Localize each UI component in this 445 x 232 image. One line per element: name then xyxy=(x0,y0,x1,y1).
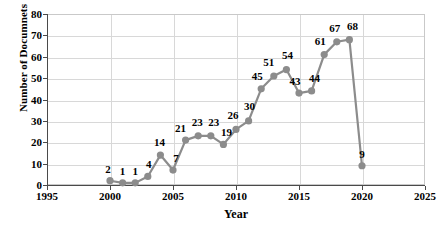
data-point-label: 14 xyxy=(154,137,165,148)
gridline-horizontal xyxy=(48,36,424,37)
plot-area xyxy=(47,14,425,185)
y-tick-mark xyxy=(43,57,47,58)
y-tick-mark xyxy=(43,35,47,36)
data-point-label: 67 xyxy=(329,23,340,34)
y-tick-label: 20 xyxy=(16,137,42,148)
gridline-horizontal xyxy=(48,79,424,80)
x-axis-title: Year xyxy=(47,207,425,222)
y-tick-mark xyxy=(43,121,47,122)
x-tick-label: 2010 xyxy=(214,190,258,202)
y-tick-mark xyxy=(43,14,47,15)
y-axis-title: Number of Documnets xyxy=(17,0,29,133)
gridline-horizontal xyxy=(48,101,424,102)
data-point-label: 44 xyxy=(309,73,320,84)
data-point-label: 2 xyxy=(105,164,111,175)
gridline-horizontal xyxy=(48,143,424,144)
x-tick-label: 2000 xyxy=(88,190,132,202)
x-tick-mark xyxy=(362,186,363,190)
x-tick-label: 1995 xyxy=(25,190,69,202)
data-point-label: 9 xyxy=(359,149,365,160)
data-point-label: 26 xyxy=(228,110,239,121)
data-point-label: 4 xyxy=(146,159,152,170)
y-tick-mark xyxy=(43,78,47,79)
line-chart: 01020304050607080 1995200020052010201520… xyxy=(0,0,445,232)
y-axis-line xyxy=(47,14,48,186)
x-tick-mark xyxy=(47,186,48,190)
data-point-label: 1 xyxy=(132,166,138,177)
x-tick-label: 2005 xyxy=(151,190,195,202)
y-tick-label: 10 xyxy=(16,159,42,170)
x-tick-mark xyxy=(299,186,300,190)
data-point-label: 43 xyxy=(290,76,301,87)
data-point-label: 61 xyxy=(315,36,326,47)
gridline-horizontal xyxy=(48,58,424,59)
data-point-label: 23 xyxy=(208,117,219,128)
y-tick-mark xyxy=(43,142,47,143)
x-tick-mark xyxy=(173,186,174,190)
x-tick-mark xyxy=(110,186,111,190)
gridline-vertical xyxy=(111,15,112,184)
data-point-label: 23 xyxy=(192,117,203,128)
data-point-label: 21 xyxy=(175,123,186,134)
data-point-label: 7 xyxy=(173,153,179,164)
gridline-vertical xyxy=(300,15,301,184)
data-point-label: 45 xyxy=(252,71,263,82)
data-point-label: 54 xyxy=(282,50,293,61)
x-tick-label: 2015 xyxy=(277,190,321,202)
y-tick-mark xyxy=(43,100,47,101)
data-point-label: 1 xyxy=(120,166,126,177)
data-point-label: 51 xyxy=(263,57,274,68)
gridline-horizontal xyxy=(48,122,424,123)
data-point-label: 68 xyxy=(347,21,358,32)
x-tick-label: 2020 xyxy=(340,190,384,202)
x-tick-label: 2025 xyxy=(403,190,445,202)
x-tick-mark xyxy=(236,186,237,190)
y-tick-mark xyxy=(43,164,47,165)
gridline-vertical xyxy=(237,15,238,184)
x-tick-mark xyxy=(425,186,426,190)
data-point-label: 19 xyxy=(221,127,232,138)
data-point-label: 30 xyxy=(244,101,255,112)
